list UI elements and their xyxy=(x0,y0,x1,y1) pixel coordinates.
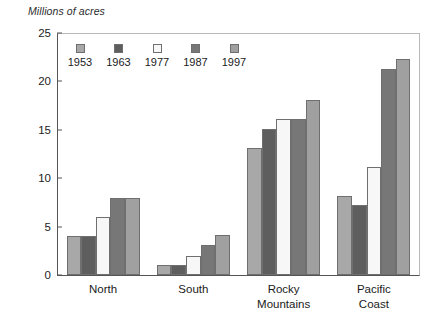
bar-group xyxy=(337,33,410,275)
legend-swatch xyxy=(114,44,123,53)
legend-swatch xyxy=(153,44,162,53)
bar-group xyxy=(247,33,320,275)
bar xyxy=(337,196,352,275)
legend-swatch xyxy=(191,44,200,53)
legend: 19531963197719871997 xyxy=(57,44,257,74)
bar xyxy=(201,245,216,275)
bar xyxy=(262,129,277,275)
bar xyxy=(247,148,262,275)
x-category-label-line: Coast xyxy=(329,297,419,312)
bar xyxy=(186,256,201,275)
bar xyxy=(81,236,96,275)
x-category-label: South xyxy=(148,282,238,297)
x-category-label-line: Rocky xyxy=(239,282,329,297)
legend-swatch xyxy=(230,44,239,53)
bar xyxy=(381,69,396,275)
bar xyxy=(96,217,111,275)
bar xyxy=(157,265,172,275)
y-axis-title: Millions of acres xyxy=(28,5,105,17)
bar xyxy=(171,265,186,275)
x-axis-category-labels: NorthSouthRockyMountainsPacificCoast xyxy=(58,282,419,330)
bar xyxy=(291,119,306,275)
bar xyxy=(67,236,82,275)
bar-chart: Millions of acres 0510152025 NorthSouthR… xyxy=(0,0,440,333)
x-category-label: PacificCoast xyxy=(329,282,419,312)
legend-swatch xyxy=(76,44,85,53)
x-category-label: RockyMountains xyxy=(239,282,329,312)
x-category-label-line: North xyxy=(58,282,148,297)
bar xyxy=(352,205,367,275)
bar xyxy=(110,198,125,275)
x-category-label-line: Mountains xyxy=(239,297,329,312)
bar xyxy=(276,119,291,275)
bar xyxy=(125,198,140,275)
legend-item: 1997 xyxy=(211,44,257,68)
bar xyxy=(306,100,321,275)
x-category-label: North xyxy=(58,282,148,297)
bar xyxy=(367,167,382,275)
legend-label: 1997 xyxy=(211,56,257,68)
x-category-label-line: Pacific xyxy=(329,282,419,297)
bar xyxy=(215,235,230,275)
bar xyxy=(396,59,411,275)
x-category-label-line: South xyxy=(148,282,238,297)
